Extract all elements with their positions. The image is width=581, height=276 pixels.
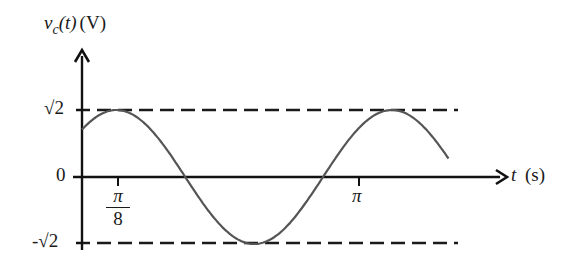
x-tick-pi: π	[352, 185, 362, 207]
x-axis-var: t	[511, 164, 516, 185]
x-tick-pi-over-8-den: 8	[106, 209, 130, 229]
y-axis-arg: (t)	[59, 12, 77, 33]
y-axis-label: vc(t)(V)	[44, 12, 106, 38]
x-tick-pi-over-8: π 8	[106, 186, 130, 229]
chart-canvas	[0, 0, 581, 276]
x-axis-label: t (s)	[511, 164, 545, 186]
y-axis-unit: (V)	[80, 12, 106, 33]
y-tick-neg-sqrt2: -√2	[32, 230, 58, 252]
x-axis-unit: (s)	[525, 164, 545, 185]
x-tick-pi-over-8-num: π	[106, 186, 130, 206]
y-tick-sqrt2: √2	[44, 97, 64, 119]
y-tick-zero: 0	[56, 164, 66, 186]
